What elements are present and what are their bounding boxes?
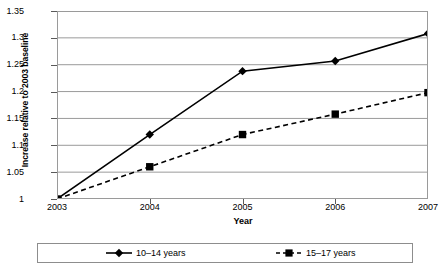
- x-tick-label: 2003: [27, 202, 87, 212]
- legend-entry-10-14: 10–14 years: [106, 244, 186, 262]
- y-tick-label: 1.05: [0, 168, 24, 177]
- legend-label-10-14: 10–14 years: [136, 249, 186, 258]
- x-axis-title: Year: [57, 216, 429, 226]
- diamond-marker-icon: [106, 248, 132, 258]
- y-tick-label: 1.25: [0, 60, 24, 69]
- x-tick-mark: [150, 199, 151, 204]
- y-tick-label: 1.2: [0, 87, 24, 96]
- y-tick-mark: [51, 199, 57, 200]
- x-tick-mark: [335, 199, 336, 204]
- y-tick-label: 1.35: [0, 7, 24, 16]
- plot-frame: [57, 11, 428, 199]
- plot-area: [57, 11, 428, 199]
- line-chart: Increase relative to 2003 baseline 11.05…: [0, 0, 448, 269]
- legend-label-15-17: 15–17 years: [306, 249, 356, 258]
- x-tick-label: 2007: [398, 202, 448, 212]
- legend-entry-15-17: 15–17 years: [276, 244, 356, 262]
- square-marker-icon: [276, 248, 302, 258]
- y-tick-label: 1.1: [0, 141, 24, 150]
- y-tick-label: 1: [0, 195, 24, 204]
- y-tick-label: 1.3: [0, 33, 24, 42]
- x-tick-mark: [243, 199, 244, 204]
- y-tick-label: 1.15: [0, 114, 24, 123]
- legend: 10–14 years 15–17 years: [37, 243, 413, 263]
